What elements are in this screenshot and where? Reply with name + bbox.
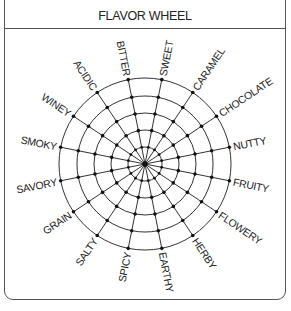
intersection-dot — [193, 152, 197, 156]
intersection-dot — [72, 114, 76, 118]
intersection-dot — [228, 145, 232, 149]
intersection-dot — [115, 205, 119, 209]
label-nutty: NUTTY — [232, 134, 267, 152]
intersection-dot — [147, 146, 150, 149]
intersection-dot — [133, 112, 137, 116]
label-sweet: SWEET — [157, 39, 176, 77]
intersection-dot — [153, 177, 156, 180]
label-winey: WINEY — [39, 91, 73, 119]
intersection-dot — [162, 134, 166, 138]
intersection-dot — [101, 134, 105, 138]
intersection-dot — [105, 219, 109, 223]
intersection-dot — [186, 191, 190, 195]
intersection-dot — [177, 156, 181, 160]
label-acidic: ACIDIC — [71, 58, 100, 93]
intersection-dot — [153, 148, 156, 151]
intersection-dot — [124, 190, 128, 194]
center-hub — [142, 161, 147, 166]
intersection-dot — [137, 196, 141, 200]
intersection-dot — [133, 212, 137, 216]
intersection-dot — [171, 181, 175, 185]
intersection-dot — [115, 143, 119, 147]
intersection-dot — [210, 149, 214, 153]
intersection-dot — [127, 166, 130, 169]
intersection-dot — [160, 159, 163, 162]
intersection-dot — [160, 78, 164, 82]
label-grain: GRAIN — [40, 209, 73, 237]
intersection-dot — [153, 112, 157, 116]
intersection-dot — [130, 229, 134, 233]
intersection-dot — [162, 190, 166, 194]
label-bitter: BITTER — [115, 40, 134, 78]
label-fruity: FRUITY — [232, 176, 270, 195]
intersection-dot — [105, 106, 109, 110]
intersection-dot — [134, 177, 137, 180]
intersection-dot — [215, 210, 219, 214]
intersection-dot — [153, 212, 157, 216]
intersection-dot — [186, 134, 190, 138]
intersection-dot — [191, 91, 195, 95]
label-savory: SAVORY — [15, 176, 58, 196]
intersection-dot — [77, 175, 81, 179]
intersection-dot — [126, 78, 130, 82]
label-smoky: SMOKY — [20, 133, 58, 152]
label-earthy: EARTHY — [157, 251, 177, 293]
label-caramel: CARAMEL — [190, 45, 227, 93]
intersection-dot — [181, 219, 185, 223]
intersection-dot — [93, 152, 97, 156]
intersection-dot — [110, 156, 114, 160]
intersection-dot — [87, 200, 91, 204]
intersection-dot — [115, 181, 119, 185]
intersection-dot — [95, 234, 99, 238]
label-salty: SALTY — [73, 235, 100, 268]
intersection-dot — [59, 145, 63, 149]
intersection-dot — [171, 143, 175, 147]
intersection-dot — [77, 149, 81, 153]
intersection-dot — [140, 146, 143, 149]
intersection-dot — [181, 106, 185, 110]
intersection-dot — [210, 175, 214, 179]
label-chocolate: CHOCOLATE — [216, 74, 274, 119]
intersection-dot — [110, 169, 114, 173]
intersection-dot — [124, 134, 128, 138]
intersection-dot — [156, 96, 160, 100]
intersection-dot — [215, 114, 219, 118]
intersection-dot — [158, 172, 161, 175]
intersection-dot — [129, 172, 132, 175]
intersection-dot — [228, 179, 232, 183]
intersection-dot — [150, 129, 154, 133]
label-flowery: FLOWERY — [216, 209, 264, 247]
intersection-dot — [193, 172, 197, 176]
intersection-dot — [129, 153, 132, 156]
intersection-dot — [200, 200, 204, 204]
intersection-dot — [134, 148, 137, 151]
intersection-dot — [72, 210, 76, 214]
intersection-dot — [160, 166, 163, 169]
intersection-dot — [101, 191, 105, 195]
intersection-dot — [172, 205, 176, 209]
intersection-dot — [140, 179, 143, 182]
intersection-dot — [172, 120, 176, 124]
intersection-dot — [126, 247, 130, 251]
intersection-dot — [95, 91, 99, 95]
intersection-dot — [191, 234, 195, 238]
intersection-dot — [130, 96, 134, 100]
intersection-dot — [200, 124, 204, 128]
intersection-dot — [59, 179, 63, 183]
intersection-dot — [93, 172, 97, 176]
intersection-dot — [150, 196, 154, 200]
label-spicy: SPICY — [116, 251, 134, 283]
intersection-dot — [160, 247, 164, 251]
intersection-dot — [87, 124, 91, 128]
intersection-dot — [115, 120, 119, 124]
intersection-dot — [147, 179, 150, 182]
intersection-dot — [127, 159, 130, 162]
wheel-dots — [59, 78, 231, 250]
intersection-dot — [156, 229, 160, 233]
label-herby: HERBY — [190, 235, 219, 271]
intersection-dot — [158, 153, 161, 156]
flavor-wheel-diagram: SWEETCARAMELCHOCOLATENUTTYFRUITYFLOWERYH… — [0, 0, 291, 311]
intersection-dot — [177, 169, 181, 173]
intersection-dot — [137, 129, 141, 133]
